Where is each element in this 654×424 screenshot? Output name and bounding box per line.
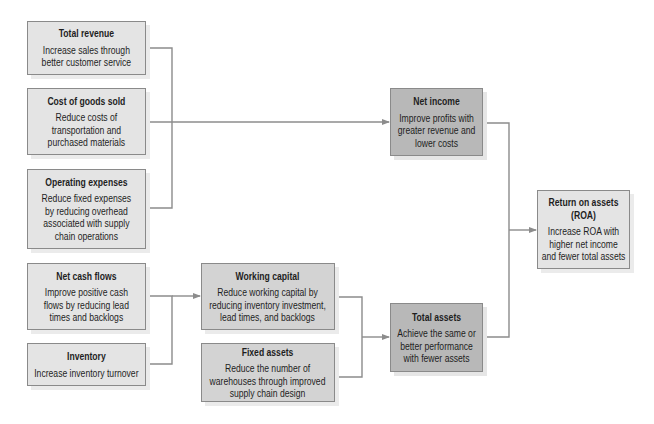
box-text-line: lead times, and backlogs bbox=[221, 311, 316, 324]
box-text-line: associated with supply bbox=[43, 217, 129, 230]
box-title: Inventory bbox=[67, 350, 106, 363]
box-fixed-assets: Fixed assets Reduce the number of wareho… bbox=[201, 343, 335, 402]
box-text-line: Achieve the same or bbox=[397, 327, 475, 340]
box-title: Working capital bbox=[236, 270, 300, 283]
box-text-line: transportation and bbox=[52, 124, 121, 137]
box-text-line: Increase inventory turnover bbox=[34, 367, 138, 380]
box-operating-expenses: Operating expenses Reduce fixed expenses… bbox=[27, 169, 146, 249]
box-title: Net cash flows bbox=[56, 270, 116, 283]
box-total-assets: Total assets Achieve the same or better … bbox=[390, 303, 483, 372]
box-working-capital: Working capital Reduce working capital b… bbox=[201, 263, 335, 330]
box-text-line: Reduce working capital by bbox=[218, 286, 319, 299]
box-title: Net income bbox=[413, 95, 459, 108]
box-text-line: supply chain design bbox=[230, 387, 306, 400]
box-text-line: Reduce costs of bbox=[56, 111, 118, 124]
box-cost-of-goods-sold: Cost of goods sold Reduce costs of trans… bbox=[27, 88, 146, 155]
box-text-line: chain operations bbox=[55, 230, 118, 243]
box-text-line: Improve positive cash bbox=[45, 286, 128, 299]
box-text-line: reducing inventory investment, bbox=[210, 299, 327, 312]
box-net-income: Net income Improve profits with greater … bbox=[390, 88, 483, 156]
box-text-line: by reducing overhead bbox=[45, 205, 128, 218]
box-title: Fixed assets bbox=[242, 346, 294, 359]
connector-cashflow-inventory-bracket bbox=[146, 296, 172, 364]
box-text-line: flows by reducing lead bbox=[44, 299, 129, 312]
box-text-line: lower costs bbox=[415, 137, 458, 150]
box-text-line: Reduce the number of bbox=[225, 362, 310, 375]
box-text-line: Reduce fixed expenses bbox=[42, 192, 132, 205]
box-title: Return on assets bbox=[549, 196, 619, 209]
box-text-line: Improve profits with bbox=[399, 112, 474, 125]
box-total-revenue: Total revenue Increase sales through bet… bbox=[27, 21, 146, 75]
connector-assets-bracket bbox=[335, 297, 362, 377]
box-text-line: better performance bbox=[400, 340, 473, 353]
connector-revenue-opex-bracket bbox=[146, 48, 172, 208]
box-text-line: Increase ROA with bbox=[548, 225, 619, 238]
connector-roa-bracket bbox=[483, 123, 509, 337]
box-text-line: warehouses through improved bbox=[210, 375, 326, 388]
box-title: Cost of goods sold bbox=[48, 95, 126, 108]
box-return-on-assets: Return on assets (ROA) Increase ROA with… bbox=[537, 190, 630, 269]
box-text-line: purchased materials bbox=[48, 136, 126, 149]
box-title: Total assets bbox=[412, 311, 461, 324]
box-title: Operating expenses bbox=[45, 176, 127, 189]
box-text-line: higher net income bbox=[549, 238, 617, 251]
box-text-line: with fewer assets bbox=[403, 352, 469, 365]
box-title: Total revenue bbox=[59, 27, 114, 40]
box-text-line: better customer service bbox=[42, 56, 131, 69]
box-text-line: greater revenue and bbox=[398, 124, 476, 137]
box-text-line: Increase sales through bbox=[43, 44, 130, 57]
box-title: (ROA) bbox=[571, 209, 596, 222]
box-net-cash-flows: Net cash flows Improve positive cash flo… bbox=[27, 263, 146, 330]
supply-chain-roa-diagram: Total revenue Increase sales through bet… bbox=[0, 0, 654, 424]
box-text-line: and fewer total assets bbox=[542, 250, 626, 263]
box-inventory: Inventory Increase inventory turnover bbox=[27, 343, 146, 386]
box-text-line: times and backlogs bbox=[50, 311, 124, 324]
